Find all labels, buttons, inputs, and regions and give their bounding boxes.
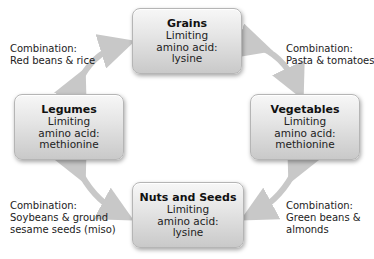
combination-legumes-grains: Combination: Red beans & rice — [10, 43, 95, 67]
combination-heading: Combination: — [10, 43, 95, 55]
node-line: lysine — [133, 53, 241, 65]
node-legumes: Legumes Limiting amino acid: methionine — [14, 94, 124, 160]
node-vegetables: Vegetables Limiting amino acid: methioni… — [250, 94, 360, 160]
combination-heading: Combination: — [286, 43, 374, 55]
combination-text: Pasta & tomatoes — [286, 55, 374, 67]
node-nuts-and-seeds: Nuts and Seeds Limiting amino acid: lysi… — [132, 182, 244, 248]
combination-text: Green beans & — [286, 212, 361, 224]
combination-text: sesame seeds (miso) — [10, 224, 116, 236]
combination-text: Red beans & rice — [10, 55, 95, 67]
node-line: lysine — [133, 227, 243, 239]
combination-text: almonds — [286, 224, 361, 236]
node-line: methionine — [15, 139, 123, 151]
combination-text: Soybeans & ground — [10, 212, 116, 224]
combination-grains-vegetables: Combination: Pasta & tomatoes — [286, 43, 374, 67]
combination-legumes-nuts: Combination: Soybeans & ground sesame se… — [10, 200, 116, 236]
combination-vegetables-nuts: Combination: Green beans & almonds — [286, 200, 361, 236]
node-line: methionine — [251, 139, 359, 151]
combination-heading: Combination: — [10, 200, 116, 212]
combination-heading: Combination: — [286, 200, 361, 212]
node-grains: Grains Limiting amino acid: lysine — [132, 8, 242, 74]
